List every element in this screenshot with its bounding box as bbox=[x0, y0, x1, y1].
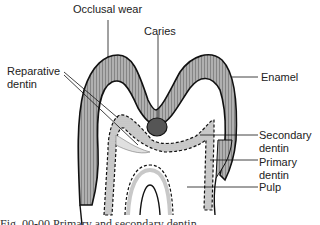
label-reparative-dentin-line1: Reparative bbox=[7, 65, 60, 77]
pulp-canal-inner bbox=[140, 185, 160, 215]
label-pulp: Pulp bbox=[259, 181, 281, 193]
caption-text: Fig. 00-00 Primary and secondary dentin … bbox=[0, 217, 209, 225]
right-root-outline bbox=[214, 178, 216, 215]
label-secondary-dentin-line1: Secondary bbox=[259, 129, 312, 141]
label-enamel: Enamel bbox=[261, 71, 298, 83]
label-reparative-dentin-line2: dentin bbox=[7, 78, 37, 90]
caries-lesion bbox=[147, 118, 167, 136]
figure-caption-cropped: Fig. 00-00 Primary and secondary dentin … bbox=[0, 217, 320, 225]
label-primary-dentin-line1: Primary bbox=[259, 156, 297, 168]
pulp-canal-band bbox=[128, 170, 170, 215]
label-primary-dentin-line2: dentin bbox=[259, 169, 289, 181]
label-secondary-dentin-line2: dentin bbox=[259, 142, 289, 154]
label-occlusal-wear: Occlusal wear bbox=[73, 3, 142, 15]
label-caries: Caries bbox=[144, 25, 176, 37]
tooth-diagram: Occlusal wear Caries Reparative dentin E… bbox=[0, 0, 320, 225]
